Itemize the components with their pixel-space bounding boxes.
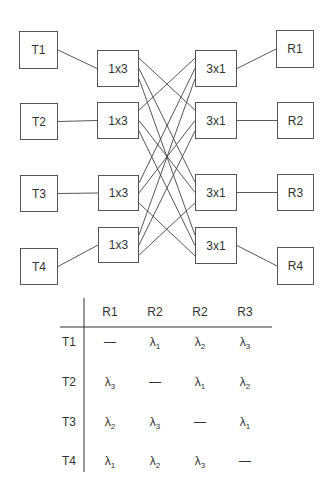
transmitter-label: T3: [32, 187, 46, 201]
transmitter-box-t3: T3: [20, 175, 58, 212]
transmitter-label: T2: [32, 115, 46, 129]
table-cell: —: [135, 375, 175, 389]
receiver-label: R4: [288, 259, 303, 273]
transmitter-label: T1: [31, 43, 45, 57]
col-header: R3: [225, 305, 265, 319]
splitter-box-s4: 1x3: [98, 227, 139, 263]
splitter-box-s3: 1x3: [98, 175, 139, 211]
col-header: R1: [90, 305, 130, 319]
combiner-box-c2: 3x1: [195, 102, 237, 139]
splitter-label: 1x3: [109, 186, 128, 200]
row-label: T2: [62, 375, 76, 389]
splitter-label: 1x3: [109, 238, 128, 252]
combiner-box-c1: 3x1: [195, 50, 237, 87]
table-cell: λ2: [90, 415, 130, 431]
table-cell: —: [225, 454, 265, 468]
table-cell: λ3: [90, 375, 130, 391]
table-cell: λ3: [135, 415, 175, 431]
link-c1-r1: [237, 49, 276, 69]
table-cell: λ1: [90, 454, 130, 470]
table-cell: λ2: [135, 454, 175, 470]
transmitter-box-t2: T2: [20, 103, 58, 140]
link-t1-s1: [58, 50, 97, 69]
table-cell: λ1: [135, 335, 175, 351]
row-label: T4: [62, 454, 76, 468]
combiner-box-c3: 3x1: [195, 174, 237, 211]
table-cell: —: [90, 335, 130, 349]
link-t4-s4: [58, 245, 98, 267]
table-cell: λ3: [225, 335, 265, 351]
splitter-box-s2: 1x3: [97, 102, 139, 139]
row-label: T3: [62, 415, 76, 429]
receiver-box-r2: R2: [277, 102, 314, 139]
col-header: R2: [135, 305, 175, 319]
transmitter-label: T4: [32, 260, 46, 274]
transmitter-box-t1: T1: [19, 31, 58, 69]
table-cell: λ1: [180, 375, 220, 391]
receiver-label: R3: [288, 186, 303, 200]
combiner-box-c4: 3x1: [195, 227, 237, 264]
receiver-label: R2: [288, 114, 303, 128]
table-cell: λ2: [225, 375, 265, 391]
splitter-label: 1x3: [108, 62, 127, 76]
receiver-box-r1: R1: [276, 30, 314, 68]
splitter-box-s1: 1x3: [97, 50, 139, 87]
combiner-label: 3x1: [206, 239, 225, 253]
table-cell: λ3: [180, 454, 220, 470]
receiver-box-r3: R3: [277, 174, 314, 211]
table-cell: —: [180, 415, 220, 429]
receiver-box-r4: R4: [277, 247, 314, 285]
link-t3-s3: [58, 193, 98, 194]
transmitter-box-t4: T4: [20, 248, 58, 285]
link-c4-r4: [237, 246, 277, 267]
table-cell: λ1: [225, 415, 265, 431]
combiner-label: 3x1: [206, 62, 225, 76]
receiver-label: R1: [287, 42, 302, 56]
combiner-label: 3x1: [206, 186, 225, 200]
combiner-label: 3x1: [206, 114, 225, 128]
row-label: T1: [62, 335, 76, 349]
link-t2-s2: [58, 121, 97, 122]
col-header: R2: [180, 305, 220, 319]
table-cell: λ2: [180, 335, 220, 351]
splitter-label: 1x3: [108, 114, 127, 128]
